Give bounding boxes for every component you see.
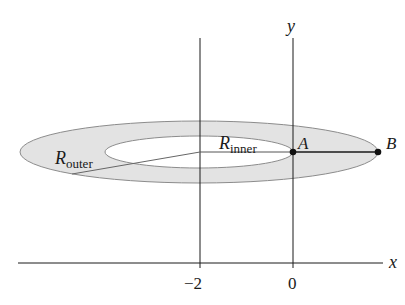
point-b-label: B [386,134,397,153]
y-axis-label: y [285,16,295,36]
tick-label-neg2: −2 [184,274,202,293]
point-a [290,149,297,156]
point-a-label: A [297,134,309,153]
washer-diagram: y x −2 0 A B Rinner Router [0,0,405,305]
x-axis-label: x [388,252,397,272]
tick-label-0: 0 [288,274,297,293]
point-b [375,149,382,156]
